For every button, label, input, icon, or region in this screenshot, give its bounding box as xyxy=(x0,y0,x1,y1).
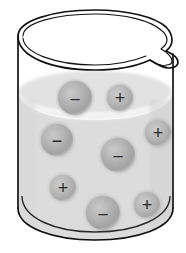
ion-positive[interactable]: + xyxy=(49,174,78,203)
ion-charge-label: − xyxy=(69,89,80,110)
beaker-figure: − + − + xyxy=(0,0,186,253)
ion-charge-label: − xyxy=(52,131,63,151)
liquid-left-shading xyxy=(19,100,36,228)
ion-positive[interactable]: + xyxy=(144,119,173,148)
ion-charge-label: + xyxy=(115,88,126,108)
ion-charge-label: − xyxy=(97,204,108,225)
ion-positive[interactable]: + xyxy=(133,191,162,220)
ion-negative[interactable]: − xyxy=(40,123,75,158)
beaker-rim-outer xyxy=(18,10,178,70)
ion-positive[interactable]: + xyxy=(106,84,135,113)
liquid-surface xyxy=(18,71,172,113)
ion-charge-label: + xyxy=(142,195,153,215)
beaker-diagram: − + − + xyxy=(0,0,186,253)
ion-charge-label: + xyxy=(58,178,69,198)
ion-negative[interactable]: − xyxy=(57,80,94,117)
ion-negative[interactable]: − xyxy=(100,137,137,174)
ion-negative[interactable]: − xyxy=(85,195,122,232)
ion-charge-label: + xyxy=(153,123,164,143)
ion-charge-label: − xyxy=(112,146,123,167)
